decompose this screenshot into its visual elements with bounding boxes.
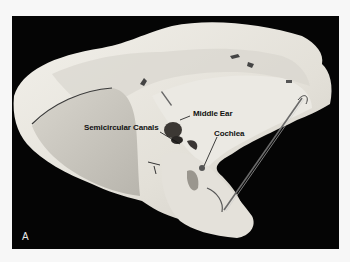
label-middle-ear: Middle Ear	[193, 109, 232, 118]
label-semicircular-canals: Semicircular Canals	[84, 123, 159, 132]
label-cochlea: Cochlea	[214, 129, 244, 138]
panel-letter: A	[22, 231, 29, 242]
specimen-photo: Middle Ear Semicircular Canals Cochlea A	[12, 16, 339, 249]
temporal-bone-illustration	[12, 16, 339, 249]
